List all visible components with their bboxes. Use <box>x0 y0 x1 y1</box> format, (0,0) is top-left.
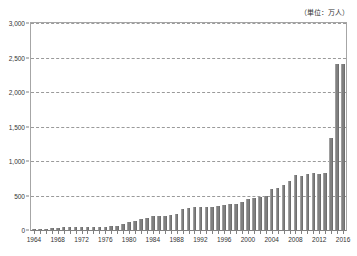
bar-1985 <box>157 216 161 230</box>
x-axis: 1964196819721976198019841988199219962000… <box>31 231 346 253</box>
bar-1987 <box>169 215 173 230</box>
y-tick-label-1500: 1,500 <box>9 123 25 130</box>
bar-1994 <box>210 207 214 230</box>
bar-1997 <box>228 204 232 230</box>
x-tick-mark-1972 <box>82 231 83 234</box>
bar-2006 <box>282 185 286 230</box>
x-tick-mark-2004 <box>272 231 273 234</box>
x-tick-mark-2003 <box>266 231 267 234</box>
x-tick-mark-2005 <box>278 231 279 234</box>
x-tick-mark-1968 <box>58 231 59 234</box>
bar-1974 <box>92 227 96 230</box>
y-tick-mark-1500 <box>26 126 29 127</box>
x-tick-label-1972: 1972 <box>74 236 88 244</box>
bar-2003 <box>264 196 268 230</box>
x-tick-mark-2009 <box>301 231 302 234</box>
x-tick-mark-1995 <box>218 231 219 234</box>
x-tick-mark-1977 <box>111 231 112 234</box>
bar-1966 <box>44 229 48 230</box>
x-tick-label-1992: 1992 <box>193 236 207 244</box>
bar-1977 <box>109 226 113 230</box>
x-tick-mark-1986 <box>165 231 166 234</box>
x-tick-mark-1978 <box>117 231 118 234</box>
bar-1993 <box>205 207 209 230</box>
x-tick-mark-1987 <box>171 231 172 234</box>
bar-1981 <box>133 221 137 230</box>
y-tick-label-1000: 1,000 <box>9 158 25 165</box>
x-tick-mark-1993 <box>206 231 207 234</box>
y-tick-mark-500 <box>26 195 29 196</box>
y-tick-label-2500: 2,500 <box>9 54 25 61</box>
bar-series <box>31 23 346 230</box>
x-tick-mark-1965 <box>40 231 41 234</box>
x-tick-mark-2012 <box>319 231 320 234</box>
bar-1967 <box>50 228 54 230</box>
x-tick-label-1964: 1964 <box>27 236 41 244</box>
x-tick-label-1968: 1968 <box>51 236 65 244</box>
bar-1975 <box>98 227 102 230</box>
x-tick-label-2016: 2016 <box>336 236 350 244</box>
x-tick-mark-1996 <box>224 231 225 234</box>
y-tick-mark-0 <box>26 230 29 231</box>
x-tick-mark-1992 <box>200 231 201 234</box>
bar-2014 <box>329 138 333 230</box>
x-tick-label-2004: 2004 <box>264 236 278 244</box>
unit-note: （単位：万人） <box>300 7 349 17</box>
y-tick-label-2000: 2,000 <box>9 89 25 96</box>
bar-2005 <box>276 188 280 230</box>
x-tick-mark-1975 <box>99 231 100 234</box>
x-tick-mark-1976 <box>105 231 106 234</box>
x-tick-mark-2000 <box>248 231 249 234</box>
x-tick-mark-1973 <box>87 231 88 234</box>
bar-1996 <box>222 205 226 230</box>
x-tick-label-2000: 2000 <box>241 236 255 244</box>
x-tick-mark-1985 <box>159 231 160 234</box>
bar-1968 <box>56 228 60 230</box>
bar-1998 <box>234 204 238 230</box>
y-tick-label-3000: 3,000 <box>9 20 25 27</box>
bar-2001 <box>252 198 256 230</box>
bar-chart: （単位：万人） 05001,0001,5002,0002,5003,000 19… <box>0 0 357 256</box>
x-tick-mark-1999 <box>242 231 243 234</box>
bar-2015 <box>335 64 339 230</box>
bar-1969 <box>62 227 66 230</box>
y-tick-mark-2500 <box>26 57 29 58</box>
x-tick-mark-1966 <box>46 231 47 234</box>
x-tick-label-1984: 1984 <box>146 236 160 244</box>
bar-1983 <box>145 218 149 230</box>
bar-1992 <box>199 207 203 230</box>
bar-2009 <box>300 176 304 231</box>
x-tick-mark-1991 <box>194 231 195 234</box>
bar-2007 <box>288 181 292 230</box>
x-tick-mark-1989 <box>183 231 184 234</box>
x-tick-label-1980: 1980 <box>122 236 136 244</box>
bar-2016 <box>341 64 345 230</box>
y-tick-label-500: 500 <box>14 192 25 199</box>
x-tick-mark-1994 <box>212 231 213 234</box>
y-tick-mark-3000 <box>26 23 29 24</box>
x-tick-mark-1980 <box>129 231 130 234</box>
bar-2010 <box>306 174 310 230</box>
bar-1988 <box>175 214 179 230</box>
x-tick-mark-2016 <box>343 231 344 234</box>
bar-1970 <box>68 227 72 230</box>
x-tick-mark-2010 <box>307 231 308 234</box>
x-tick-mark-1981 <box>135 231 136 234</box>
x-tick-mark-2007 <box>290 231 291 234</box>
x-tick-mark-1988 <box>177 231 178 234</box>
bar-1973 <box>86 227 90 230</box>
x-tick-mark-1998 <box>236 231 237 234</box>
x-tick-mark-2013 <box>325 231 326 234</box>
bar-1976 <box>104 227 108 230</box>
x-tick-mark-1970 <box>70 231 71 234</box>
bar-1989 <box>181 209 185 230</box>
bar-2004 <box>270 189 274 230</box>
x-tick-label-1976: 1976 <box>98 236 112 244</box>
x-tick-mark-1964 <box>34 231 35 234</box>
x-tick-mark-2008 <box>295 231 296 234</box>
x-tick-mark-1983 <box>147 231 148 234</box>
bar-1980 <box>127 222 131 230</box>
x-tick-mark-2011 <box>313 231 314 234</box>
x-tick-mark-1997 <box>230 231 231 234</box>
x-tick-label-1988: 1988 <box>169 236 183 244</box>
